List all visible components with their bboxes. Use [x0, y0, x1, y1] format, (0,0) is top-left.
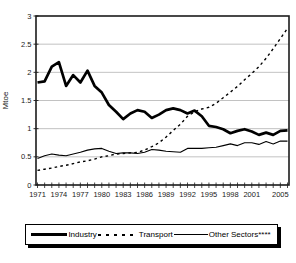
line-chart: 00.511.522.53197119741977198019831986198… — [0, 0, 296, 210]
x-axis-tick-label: 1971 — [29, 190, 46, 199]
x-axis-tick-label: 1986 — [136, 190, 153, 199]
y-axis-title: Mtoe — [1, 91, 10, 109]
chart-figure: 00.511.522.53197119741977198019831986198… — [0, 0, 296, 263]
other-sectors-line-swatch — [174, 234, 208, 235]
x-axis-tick-label: 2005 — [272, 190, 289, 199]
x-axis-tick-label: 1998 — [222, 190, 239, 199]
transport-line-swatch — [98, 234, 138, 236]
legend-label-transport: Transport — [138, 230, 174, 239]
industry-line-swatch — [31, 233, 67, 236]
x-axis-tick-label: 1995 — [201, 190, 218, 199]
y-axis-tick-label: 3 — [27, 12, 31, 21]
x-axis-tick-label: 2001 — [243, 190, 260, 199]
x-axis-tick-label: 1977 — [72, 190, 89, 199]
chart-legend: Industry Transport Other Sectors**** — [25, 224, 278, 245]
x-axis-tick-label: 1983 — [115, 190, 132, 199]
y-axis-tick-label: 2.5 — [21, 40, 31, 49]
legend-label-industry: Industry — [67, 230, 97, 239]
x-axis-tick-label: 1992 — [179, 190, 196, 199]
x-axis-tick-label: 1989 — [158, 190, 175, 199]
y-axis-tick-label: 1 — [27, 124, 31, 133]
y-axis-tick-label: 1.5 — [21, 96, 31, 105]
y-axis-tick-label: 0.5 — [21, 152, 31, 161]
x-axis-tick-label: 1974 — [51, 190, 68, 199]
legend-item-other-sectors: Other Sectors**** — [174, 230, 272, 239]
legend-label-other-sectors: Other Sectors**** — [208, 230, 272, 239]
y-axis-tick-label: 2 — [27, 68, 31, 77]
legend-item-transport: Transport — [98, 230, 174, 239]
x-axis-tick-label: 1980 — [93, 190, 110, 199]
legend-item-industry: Industry — [31, 230, 97, 239]
y-axis-tick-label: 0 — [27, 181, 31, 190]
